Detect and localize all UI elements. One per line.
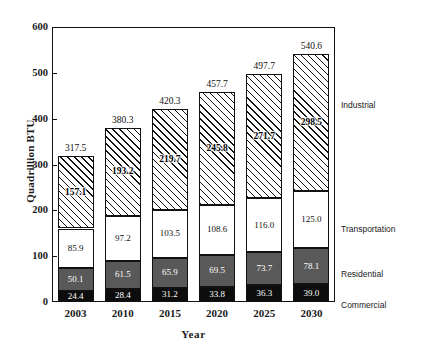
x-axis-title: Year [52,328,335,340]
x-axis-tick-label: 2010 [99,307,146,320]
bar-group[interactable]: 24.450.185.9157.1317.5 [58,156,94,302]
bar-total-label: 497.7 [234,61,294,71]
bar-segment-value-label: 24.4 [68,292,84,301]
y-axis-tick-label: 600 [18,22,48,32]
bar-group[interactable]: 31.265.9103.5219.7420.3 [152,109,188,302]
bar-total-label: 457.7 [187,79,247,89]
bar-segment-transportation[interactable]: 97.2 [105,216,141,261]
bar-segment-value-label: 298.5 [301,118,322,127]
bar-segment-value-label: 28.4 [115,291,131,300]
x-axis-tick-label: 2030 [288,307,335,320]
y-axis-tick-label: 300 [18,160,48,170]
bar-segment-industrial[interactable]: 298.5 [293,54,329,191]
bar-segment-transportation[interactable]: 125.0 [293,191,329,248]
bar-segment-value-label: 85.9 [68,244,84,253]
bar-group[interactable]: 28.461.597.2193.2380.3 [105,128,141,302]
bar-segment-value-label: 193.2 [112,167,133,176]
bar-segment-industrial[interactable]: 245.8 [199,92,235,205]
y-axis-tick-mark [52,73,57,74]
bar-segment-value-label: 65.9 [162,268,178,277]
bar-total-label: 380.3 [93,115,153,125]
bar-segment-value-label: 97.2 [115,234,131,243]
bar-segment-value-label: 125.0 [301,215,321,224]
bar-segment-transportation[interactable]: 103.5 [152,210,188,257]
bar-segment-transportation[interactable]: 108.6 [199,205,235,255]
y-axis-tick-label: 0 [18,297,48,307]
bar-segment-industrial[interactable]: 219.7 [152,109,188,210]
bar-segment-value-label: 73.7 [256,264,272,273]
bar-segment-commercial[interactable]: 31.2 [152,288,188,302]
bar-segment-value-label: 33.8 [209,290,225,299]
y-axis-tick-label: 200 [18,205,48,215]
bar-segment-residential[interactable]: 69.5 [199,255,235,287]
bar-segment-value-label: 31.2 [162,290,178,299]
bars-layer: 24.450.185.9157.1317.528.461.597.2193.23… [52,27,335,302]
x-axis-tick-label: 2025 [241,307,288,320]
legend-label-residential: Residential [341,269,423,279]
y-axis-tick-label: 100 [18,251,48,261]
bar-segment-value-label: 245.8 [206,144,227,153]
bar-segment-value-label: 69.5 [209,266,225,275]
x-axis-tick-labels: 200320102015202020252030 [52,307,335,325]
bar-segment-value-label: 78.1 [304,262,320,271]
bar-segment-value-label: 108.6 [207,225,227,234]
bar-segment-residential[interactable]: 50.1 [58,268,94,291]
bar-segment-value-label: 271.7 [254,132,275,141]
bar-segment-value-label: 61.5 [115,270,131,279]
bar-segment-industrial[interactable]: 157.1 [58,156,94,228]
x-axis-tick-label: 2003 [52,307,99,320]
bar-segment-value-label: 39.0 [304,289,320,298]
bar-segment-transportation[interactable]: 116.0 [246,198,282,251]
bar-segment-industrial[interactable]: 271.7 [246,74,282,199]
y-axis-tick-mark [52,210,57,211]
stacked-bar-chart: Quadrillion BTU 0100200300400500600 24.4… [0,0,423,364]
bar-segment-value-label: 157.1 [65,188,86,197]
bar-segment-transportation[interactable]: 85.9 [58,229,94,268]
bar-segment-commercial[interactable]: 39.0 [293,284,329,302]
bar-group[interactable]: 39.078.1125.0298.5540.6 [293,54,329,302]
bar-segment-commercial[interactable]: 24.4 [58,291,94,302]
y-axis-tick-labels: 0100200300400500600 [0,0,48,364]
bar-segment-commercial[interactable]: 36.3 [246,285,282,302]
legend: IndustrialTransportationResidentialComme… [341,0,423,364]
bar-segment-value-label: 116.0 [254,221,274,230]
legend-label-industrial: Industrial [341,100,423,110]
bar-total-label: 317.5 [46,143,106,153]
y-axis-tick-mark [52,165,57,166]
bar-segment-value-label: 50.1 [68,275,84,284]
bar-total-label: 420.3 [140,96,200,106]
bar-segment-residential[interactable]: 73.7 [246,252,282,286]
legend-label-commercial: Commercial [341,300,423,310]
bar-segment-value-label: 219.7 [159,155,180,164]
bar-segment-industrial[interactable]: 193.2 [105,128,141,217]
bar-segment-commercial[interactable]: 28.4 [105,289,141,302]
bar-group[interactable]: 33.869.5108.6245.8457.7 [199,92,235,302]
bar-segment-residential[interactable]: 65.9 [152,258,188,288]
y-axis-tick-label: 500 [18,68,48,78]
bar-segment-value-label: 36.3 [256,289,272,298]
bar-segment-value-label: 103.5 [160,229,180,238]
bar-total-label: 540.6 [281,41,341,51]
y-axis-tick-mark [52,119,57,120]
y-axis-tick-label: 400 [18,114,48,124]
bar-segment-residential[interactable]: 78.1 [293,248,329,284]
bar-segment-commercial[interactable]: 33.8 [199,287,235,302]
bar-segment-residential[interactable]: 61.5 [105,261,141,289]
bar-group[interactable]: 36.373.7116.0271.7497.7 [246,74,282,302]
legend-label-transportation: Transportation [341,224,423,234]
x-axis-tick-label: 2015 [146,307,193,320]
x-axis-tick-label: 2020 [194,307,241,320]
y-axis-tick-mark [52,256,57,257]
